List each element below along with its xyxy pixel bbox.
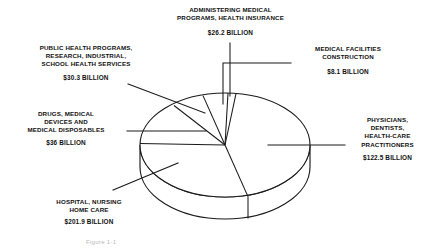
- slice-value-publichealth: $30.3 BILLION: [12, 74, 160, 82]
- pie-chart-figure: ADMINISTERING MEDICAL PROGRAMS, HEALTH I…: [0, 0, 437, 249]
- slice-label-physicians: PHYSICIANS, DENTISTS, HEALTH-CARE PRACTI…: [340, 116, 435, 149]
- slice-value-administering: $26.2 BILLION: [128, 29, 333, 37]
- slice-value-drugs: $36 BILLION: [6, 139, 126, 147]
- figure-caption: Figure 1-1: [86, 239, 116, 245]
- slice-label-publichealth: PUBLIC HEALTH PROGRAMS, RESEARCH, INDUST…: [12, 44, 160, 69]
- slice-value-facilities: $8.1 BILLION: [288, 68, 408, 76]
- slice-label-drugs: DRUGS, MEDICAL DEVICES AND MEDICAL DISPO…: [6, 110, 126, 135]
- slice-label-facilities: MEDICAL FACILITIES CONSTRUCTION: [288, 45, 408, 61]
- slice-label-hospital: HOSPITAL, NURSING HOME CARE: [28, 198, 150, 214]
- slice-value-hospital: $201.9 BILLION: [28, 218, 150, 226]
- slice-label-administering: ADMINISTERING MEDICAL PROGRAMS, HEALTH I…: [128, 6, 333, 22]
- slice-value-physicians: $122.5 BILLION: [340, 154, 435, 162]
